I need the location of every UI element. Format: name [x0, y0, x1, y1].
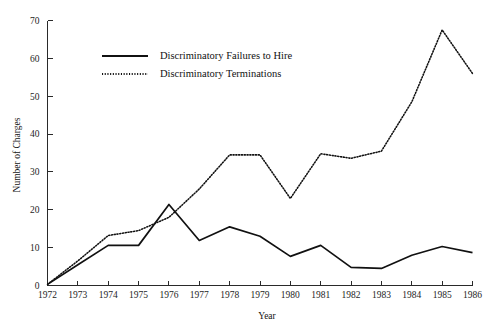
- x-tick-label: 1978: [220, 290, 239, 300]
- y-tick-label: 60: [30, 54, 40, 64]
- y-tick-label: 20: [30, 205, 40, 215]
- legend-label-discriminatory-terminations: Discriminatory Terminations: [160, 68, 281, 79]
- line-chart-figure: 010203040506070 197219731974197519761977…: [0, 0, 486, 330]
- x-tick-label: 1979: [251, 290, 270, 300]
- x-tick-label: 1986: [463, 290, 482, 300]
- x-tick-label: 1985: [433, 290, 452, 300]
- y-axis-tick-labels: 010203040506070: [30, 16, 40, 291]
- x-tick-label: 1981: [311, 290, 330, 300]
- y-tick-label: 50: [30, 92, 40, 102]
- x-tick-label: 1983: [372, 290, 391, 300]
- series-line-discriminatory-failures-to-hire: [48, 204, 473, 284]
- y-tick-label: 40: [30, 129, 40, 139]
- legend-label-discriminatory-failures-to-hire: Discriminatory Failures to Hire: [160, 50, 292, 61]
- x-tick-label: 1977: [190, 290, 209, 300]
- x-tick-label: 1982: [342, 290, 361, 300]
- x-tick-label: 1976: [159, 290, 178, 300]
- chart-legend: Discriminatory Failures to Hire Discrimi…: [102, 50, 292, 79]
- y-tick-label: 10: [30, 243, 40, 253]
- y-axis-title: Number of Charges: [12, 117, 22, 192]
- x-tick-label: 1975: [129, 290, 148, 300]
- x-tick-label: 1972: [38, 290, 57, 300]
- x-axis-tick-labels: 1972197319741975197619771978197919801981…: [38, 290, 482, 300]
- y-tick-label: 30: [30, 167, 40, 177]
- y-tick-label: 70: [30, 16, 40, 26]
- chart-canvas: 010203040506070 197219731974197519761977…: [0, 0, 486, 330]
- y-axis-tick-marks: [48, 21, 53, 286]
- x-tick-label: 1974: [99, 290, 118, 300]
- x-axis-tick-marks: [48, 281, 473, 286]
- x-tick-label: 1973: [68, 290, 87, 300]
- x-tick-label: 1984: [402, 290, 421, 300]
- x-tick-label: 1980: [281, 290, 300, 300]
- x-axis-title: Year: [258, 311, 276, 321]
